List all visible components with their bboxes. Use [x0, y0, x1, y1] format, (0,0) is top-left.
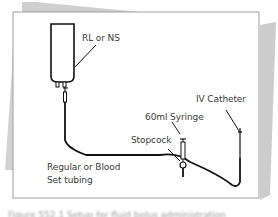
bag-label: RL or NS	[82, 33, 120, 44]
figure-caption: Figure 552.1 Setup for fluid bolus admin…	[8, 210, 226, 217]
stopcock-label: Stopcock	[131, 135, 171, 146]
tubing-label-line2: Set tubing	[47, 175, 93, 186]
iv-bag-icon	[51, 24, 74, 88]
syringe-label: 60ml Syringe	[145, 112, 204, 123]
diagram-canvas: RL or NS IV Catheter 60ml Syringe Stopco…	[0, 0, 278, 217]
diagram-svg	[0, 0, 278, 217]
tubing-label-line1: Regular or Blood	[47, 162, 120, 173]
syringe-icon	[180, 139, 186, 162]
right-page-shadow	[260, 22, 276, 200]
catheter-label: IV Catheter	[196, 94, 246, 105]
top-page-shadow	[22, 2, 140, 12]
